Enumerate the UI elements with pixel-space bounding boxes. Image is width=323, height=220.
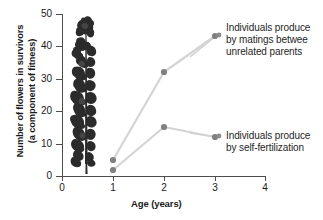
annotation-outcrossed-line2: by matings betwee xyxy=(226,34,310,46)
annotation-self-line2: by self-fertilization xyxy=(226,142,310,154)
annotation-outcrossed: Individuals produce by matings betwee un… xyxy=(226,22,310,59)
annotation-self-line1: Individuals produce xyxy=(226,130,310,142)
data-point-outcrossed-1 xyxy=(110,157,116,163)
data-point-self-2 xyxy=(161,124,167,130)
chart-figure: 50 40 30 20 10 0 Number of flowers in su… xyxy=(0,0,323,220)
annotation-outcrossed-line1: Individuals produce xyxy=(226,22,310,34)
annotation-dot-self xyxy=(217,134,222,139)
annotation-self-fertilization: Individuals produce by self-fertilizatio… xyxy=(226,130,310,154)
annotation-dot-outcrossed xyxy=(217,33,222,38)
data-point-outcrossed-2 xyxy=(161,69,167,75)
data-point-self-1 xyxy=(110,167,116,173)
series-line-outcrossed xyxy=(113,36,215,160)
annotation-outcrossed-line3: unrelated parents xyxy=(226,46,310,58)
